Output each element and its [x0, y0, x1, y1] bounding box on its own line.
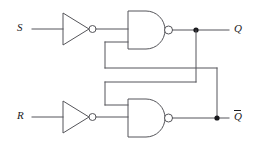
nand-top-bubble-icon: [165, 26, 173, 34]
input-label-s: S: [17, 22, 23, 33]
inverter-top-bubble-icon: [89, 26, 96, 33]
inverter-bottom-bubble-icon: [89, 114, 96, 121]
nand-bottom-bubble-icon: [165, 114, 173, 122]
overbar-group: Q: [234, 110, 242, 122]
circuit-diagram: S R Q Q: [0, 0, 266, 148]
junction-node-qbar: [214, 115, 219, 120]
inverter-bottom-body: [63, 101, 89, 133]
output-label-q: Q: [234, 23, 242, 34]
nand-top-body: [128, 11, 165, 49]
input-label-r: R: [17, 110, 24, 121]
nand-bottom-body: [128, 99, 165, 137]
output-label-qbar: Q: [234, 110, 242, 122]
output-label-qbar-text: Q: [234, 110, 242, 122]
circuit-svg: [0, 0, 266, 148]
overbar-line: [234, 110, 241, 111]
inverter-top-body: [63, 13, 89, 45]
